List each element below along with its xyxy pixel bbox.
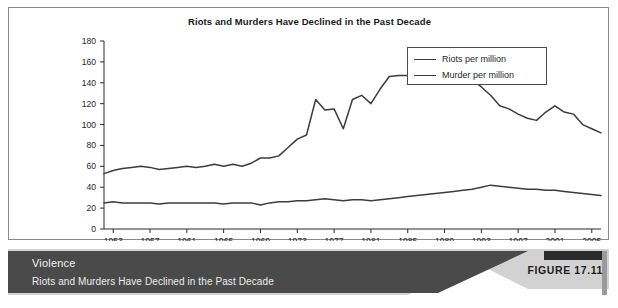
legend-line-swatch-riots-icon [414,59,436,60]
svg-text:80: 80 [86,140,96,150]
svg-text:140: 140 [82,78,97,88]
svg-text:1981: 1981 [361,236,380,241]
plot-area: 0204060801001201401601801953195719611965… [9,8,610,241]
svg-text:1969: 1969 [251,236,270,241]
caption-title: Violence [32,257,76,269]
svg-text:1993: 1993 [472,236,491,241]
svg-text:1957: 1957 [140,236,159,241]
svg-text:1985: 1985 [398,236,417,241]
svg-text:180: 180 [82,36,97,46]
svg-text:40: 40 [86,182,96,192]
caption-subtitle: Riots and Murders Have Declined in the P… [32,276,274,287]
chart-legend: Riots per million Murder per million [407,47,547,85]
svg-text:2005: 2005 [582,236,601,241]
svg-text:2001: 2001 [545,236,564,241]
svg-text:1965: 1965 [214,236,233,241]
caption-bar: Violence Riots and Murders Have Declined… [8,249,609,302]
figure-root: Riots and Murders Have Declined in the P… [0,0,618,308]
svg-text:1973: 1973 [288,236,307,241]
svg-text:1977: 1977 [325,236,344,241]
svg-text:60: 60 [86,161,96,171]
legend-line-swatch-murder-icon [414,75,436,76]
chart-series [104,64,601,205]
svg-text:1961: 1961 [177,236,196,241]
chart-panel: Riots and Murders Have Declined in the P… [8,7,609,240]
svg-text:20: 20 [86,203,96,213]
figure-number: FIGURE 17.11 [528,264,603,276]
legend-item-murder: Murder per million [414,67,540,83]
line-chart-svg: 0204060801001201401601801953195719611965… [9,8,610,241]
figure-badge-bg [544,251,607,260]
svg-text:100: 100 [82,120,97,130]
svg-text:160: 160 [82,57,97,67]
svg-text:1953: 1953 [104,236,123,241]
svg-text:1989: 1989 [435,236,454,241]
series-line-murder [104,185,601,205]
svg-text:0: 0 [91,224,96,234]
svg-text:1997: 1997 [509,236,528,241]
legend-item-riots: Riots per million [414,51,540,67]
svg-text:120: 120 [82,99,97,109]
legend-label-riots: Riots per million [442,54,506,64]
legend-label-murder: Murder per million [442,70,514,80]
